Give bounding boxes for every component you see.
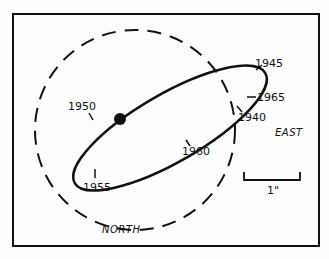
north-label: NORTH bbox=[102, 224, 140, 235]
orbit-diagram: 1945 1965 1940 1950 1960 1955 EAST NORTH… bbox=[0, 0, 329, 259]
dashed-circle bbox=[35, 30, 235, 230]
frame-border bbox=[13, 14, 319, 246]
scale-bar bbox=[244, 172, 300, 180]
year-label-1940: 1940 bbox=[238, 111, 266, 124]
year-label-1955: 1955 bbox=[83, 181, 111, 194]
diagram-canvas: 1945 1965 1940 1950 1960 1955 EAST NORTH… bbox=[0, 0, 329, 259]
year-label-1960: 1960 bbox=[182, 145, 210, 158]
east-label: EAST bbox=[275, 127, 303, 138]
year-label-1950: 1950 bbox=[68, 100, 96, 113]
year-label-1965: 1965 bbox=[257, 91, 285, 104]
year-label-1945: 1945 bbox=[255, 57, 283, 70]
scale-bar-label: 1" bbox=[267, 184, 279, 197]
central-star-dot bbox=[114, 113, 126, 125]
